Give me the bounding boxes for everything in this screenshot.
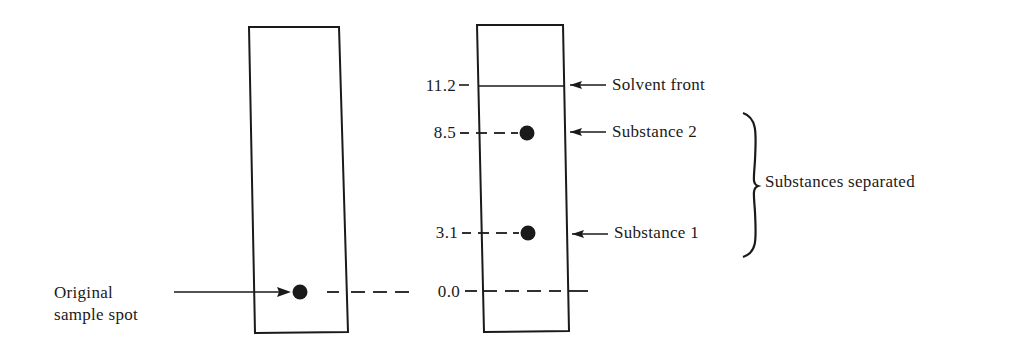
- right-paper-strip: [477, 25, 569, 332]
- original-label-line2: sample spot: [54, 305, 138, 325]
- substance-1-spot: [521, 226, 536, 241]
- tick-label-8-5: 8.5: [396, 123, 456, 143]
- tick-label-0-0: 0.0: [400, 282, 460, 302]
- substances-separated-label: Substances separated: [765, 172, 915, 192]
- substance-2-spot: [520, 126, 535, 141]
- substance-2-label: Substance 2: [612, 122, 697, 142]
- solvent-front-label: Solvent front: [612, 75, 705, 95]
- original-label-line1: Original: [54, 283, 113, 303]
- original-sample-spot: [293, 285, 308, 300]
- chromatography-diagram: 11.2 8.5 3.1 0.0 Solvent front Substance…: [0, 0, 1016, 357]
- substance-1-label: Substance 1: [614, 223, 699, 243]
- brace: [743, 113, 758, 257]
- arrowhead-original-spot: [277, 287, 291, 297]
- tick-label-11-2: 11.2: [396, 76, 456, 96]
- tick-label-3-1: 3.1: [398, 223, 458, 243]
